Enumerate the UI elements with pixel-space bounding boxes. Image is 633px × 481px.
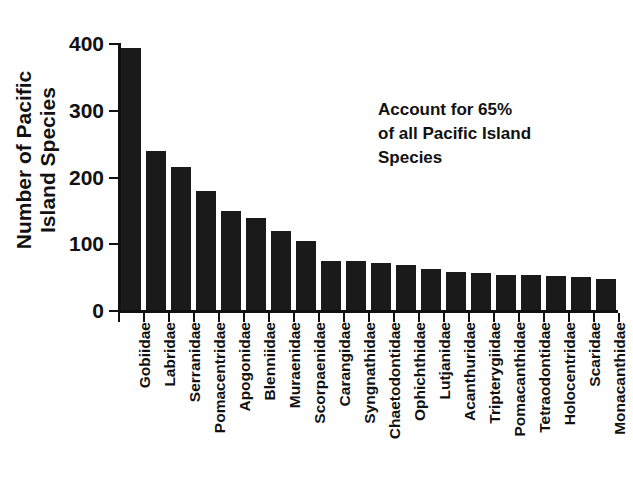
y-axis-tick-label: 400 xyxy=(0,33,104,54)
y-axis-tick-mark xyxy=(109,43,118,45)
x-axis-category-label-text: Syngnathidae xyxy=(362,322,378,424)
x-axis-category-label-text: Pomacanthidae xyxy=(512,322,528,437)
bar xyxy=(271,231,291,310)
bar xyxy=(521,275,541,310)
x-axis-category-label-text: Muraenidae xyxy=(287,322,303,408)
x-axis-tick-mark xyxy=(593,313,595,322)
bar xyxy=(421,269,441,310)
bar xyxy=(446,272,466,310)
x-axis-category-label-text: Labridae xyxy=(162,322,178,387)
bar xyxy=(171,167,191,310)
bar xyxy=(496,275,516,310)
y-axis-tick-mark xyxy=(109,110,118,112)
x-axis-category-labels: GobiidaeLabridaeSerranidaePomacentridaeA… xyxy=(118,322,618,481)
y-axis-title-line-1: Number of Pacific xyxy=(12,71,36,250)
x-axis-category-label-text: Carangidae xyxy=(337,322,353,406)
bar xyxy=(146,151,166,310)
x-axis-category-label-text: Monacanthidae xyxy=(612,322,628,435)
bar xyxy=(321,261,341,310)
x-axis-tick-mark xyxy=(418,313,420,322)
x-axis-category-label-text: Gobiidae xyxy=(137,322,153,388)
y-axis-tick-label: 0 xyxy=(0,300,104,321)
x-axis-tick-mark xyxy=(193,313,195,322)
plot-area xyxy=(118,43,618,310)
x-axis-tick-mark xyxy=(343,313,345,322)
y-axis-tick-label: 200 xyxy=(0,166,104,187)
x-axis-category-label-text: Tripterygiidae xyxy=(487,322,503,424)
annotation-line-1: Account for 65% xyxy=(378,98,531,122)
x-axis-tick-mark xyxy=(118,313,120,322)
bar xyxy=(196,191,216,310)
x-axis-tick-mark xyxy=(268,313,270,322)
bars-layer xyxy=(118,43,618,310)
x-axis-tick-mark xyxy=(618,313,620,322)
x-axis-category-label-text: Tetraodontidae xyxy=(537,322,553,433)
y-axis-tick-label: 100 xyxy=(0,233,104,254)
bar xyxy=(396,265,416,310)
x-axis-category-label-text: Acanthuridae xyxy=(462,322,478,421)
bar-chart-figure: Number of Pacific Island Species 0100200… xyxy=(0,0,633,481)
bar xyxy=(346,261,366,310)
x-axis-tick-mark xyxy=(293,313,295,322)
bar xyxy=(571,277,591,310)
bar xyxy=(471,273,491,310)
x-axis-tick-mark xyxy=(143,313,145,322)
bar xyxy=(371,263,391,310)
annotation-line-2: of all Pacific Island xyxy=(378,122,531,146)
y-axis-tick-mark xyxy=(109,177,118,179)
x-axis-category-label-text: Holocentridae xyxy=(562,322,578,425)
x-axis-category-label-text: Scaridae xyxy=(587,322,603,387)
annotation-text: Account for 65% of all Pacific Island Sp… xyxy=(378,98,531,170)
x-axis-category-label-text: Scorpaenidae xyxy=(312,322,328,424)
bar xyxy=(121,48,141,310)
x-axis-tick-mark xyxy=(468,313,470,322)
x-axis-tick-mark xyxy=(543,313,545,322)
x-axis-category-label-text: Apogonidae xyxy=(237,322,253,412)
x-axis-category-label-text: Lutjanidae xyxy=(437,322,453,400)
x-axis-tick-mark xyxy=(368,313,370,322)
y-axis-tick-label: 300 xyxy=(0,99,104,120)
bar xyxy=(221,211,241,310)
x-axis-category-label-text: Blenniidae xyxy=(262,322,278,400)
bar xyxy=(596,279,616,310)
annotation-line-3: Species xyxy=(378,146,531,170)
y-axis-tick-mark xyxy=(109,243,118,245)
x-axis-tick-mark xyxy=(493,313,495,322)
y-axis-title-line-2: Island Species xyxy=(36,71,60,250)
x-axis-tick-mark xyxy=(318,313,320,322)
bar xyxy=(546,276,566,310)
x-axis-category-label-text: Ophichthidae xyxy=(412,322,428,421)
x-axis-tick-mark xyxy=(218,313,220,322)
x-axis-category-label-text: Serranidae xyxy=(187,322,203,402)
x-axis-tick-mark xyxy=(393,313,395,322)
y-axis-tick-mark xyxy=(109,310,118,312)
x-axis-tick-mark xyxy=(568,313,570,322)
x-axis-category-label-text: Pomacentridae xyxy=(212,322,228,433)
bar xyxy=(246,218,266,310)
bar xyxy=(296,241,316,310)
x-axis-category-label-text: Chaetodontidae xyxy=(387,322,403,439)
